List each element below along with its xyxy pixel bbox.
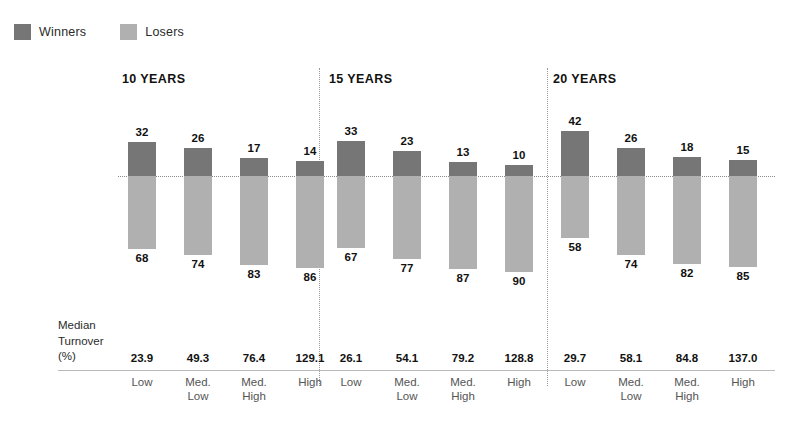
category-label: Med. High [664,375,710,403]
bar-losers [673,176,701,264]
bar-winners [505,165,533,176]
bar-value-losers: 67 [331,251,371,263]
bar-value-winners: 42 [555,115,595,127]
median-turnover-value: 128.8 [496,352,542,364]
bar-value-winners: 32 [122,126,162,138]
category-label: Low [119,375,165,389]
bar-value-losers: 85 [723,270,763,282]
category-label: Low [328,375,374,389]
median-turnover-value: 26.1 [328,352,374,364]
bar-losers [296,176,324,268]
median-turnover-value: 129.1 [287,352,333,364]
bar-value-losers: 68 [122,252,162,264]
median-turnover-value: 58.1 [608,352,654,364]
bar-value-losers: 58 [555,241,595,253]
bar-value-losers: 86 [290,271,330,283]
panel-title-15-years: 15 YEARS [329,72,392,86]
bar-value-winners: 17 [234,142,274,154]
bar-value-winners: 14 [290,145,330,157]
panel-title-10-years: 10 YEARS [122,72,185,86]
bar-value-winners: 26 [611,132,651,144]
median-turnover-value: 76.4 [231,352,277,364]
bar-value-winners: 33 [331,125,371,137]
median-turnover-caption: Median Turnover (%) [58,318,104,365]
bar-losers [449,176,477,269]
bar-winners [128,142,156,176]
chart-legend: Winners Losers [14,24,184,40]
bar-value-winners: 15 [723,144,763,156]
bar-losers [240,176,268,265]
median-turnover-value: 54.1 [384,352,430,364]
bar-losers [337,176,365,248]
bar-value-winners: 10 [499,149,539,161]
panel-title-20-years: 20 YEARS [553,72,616,86]
bar-value-losers: 74 [178,258,218,270]
bar-value-winners: 13 [443,146,483,158]
category-label: High [496,375,542,389]
bar-value-losers: 87 [443,272,483,284]
bar-winners [449,162,477,176]
bar-value-winners: 23 [387,135,427,147]
legend-item-losers: Losers [120,24,184,40]
bar-value-winners: 18 [667,141,707,153]
bar-value-losers: 77 [387,262,427,274]
category-label: High [720,375,766,389]
category-label: High [287,375,333,389]
bar-winners [240,158,268,176]
bar-value-losers: 90 [499,275,539,287]
bar-winners [296,161,324,176]
legend-swatch-winners-icon [14,24,31,40]
bar-value-losers: 82 [667,267,707,279]
bar-value-losers: 74 [611,258,651,270]
median-turnover-value: 79.2 [440,352,486,364]
category-label: Med. Low [175,375,221,403]
bar-value-losers: 83 [234,268,274,280]
legend-label-losers: Losers [145,25,184,39]
median-turnover-value: 137.0 [720,352,766,364]
bar-winners [673,157,701,176]
bar-winners [617,148,645,176]
chart-container: Winners Losers 10 YEARS 15 YEARS 20 YEAR… [0,0,792,433]
legend-label-winners: Winners [39,25,86,39]
category-label: Med. Low [608,375,654,403]
bar-winners [561,131,589,176]
bar-losers [393,176,421,259]
median-turnover-value: 29.7 [552,352,598,364]
category-label: Low [552,375,598,389]
panel-separator-2 [547,68,548,386]
bar-losers [505,176,533,272]
category-label: Med. High [231,375,277,403]
bar-winners [337,141,365,176]
category-label: Med. High [440,375,486,403]
legend-swatch-losers-icon [120,24,137,40]
bar-value-winners: 26 [178,132,218,144]
bar-losers [184,176,212,255]
bar-losers [729,176,757,267]
category-label: Med. Low [384,375,430,403]
median-turnover-value: 84.8 [664,352,710,364]
bar-winners [184,148,212,176]
median-turnover-value: 23.9 [119,352,165,364]
table-rule [58,370,775,371]
legend-item-winners: Winners [14,24,86,40]
bar-losers [617,176,645,255]
bar-winners [729,160,757,176]
bar-losers [561,176,589,238]
median-turnover-value: 49.3 [175,352,221,364]
bar-winners [393,151,421,176]
bar-losers [128,176,156,249]
